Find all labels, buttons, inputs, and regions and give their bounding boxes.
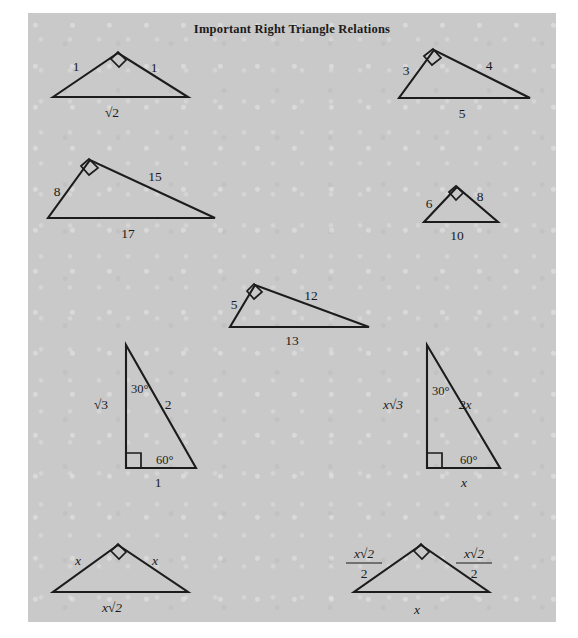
right-leg-label: x xyxy=(151,553,158,568)
figure-triangle-x-x-xsqrt2: x x x√2 xyxy=(53,544,188,615)
leg-6-label: 6 xyxy=(426,196,433,211)
hypotenuse-2-label: 2 xyxy=(165,397,172,412)
figure-panel: Important Right Triangle Relations 1 1 √… xyxy=(28,13,556,622)
triangle-outline xyxy=(230,285,369,327)
right-angle-marker xyxy=(126,453,141,468)
fraction-numerator: x√2 xyxy=(463,546,484,561)
leg-4-label: 4 xyxy=(486,58,493,73)
vertical-leg-label: x√3 xyxy=(382,397,403,412)
hypotenuse-13-label: 13 xyxy=(285,333,299,348)
base-label: x√2 xyxy=(101,600,122,615)
base-label: √2 xyxy=(105,105,119,120)
figure-triangle-half-sqrt2: x√2 2 x√2 2 x xyxy=(346,544,492,617)
figure-page: Important Right Triangle Relations 1 1 √… xyxy=(0,0,578,638)
triangle-outline xyxy=(126,345,196,468)
leg-8-label: 8 xyxy=(54,184,61,199)
right-triangle-relations-diagram: 1 1 √2 3 4 5 8 15 17 xyxy=(28,13,556,622)
angle-60-label: 60° xyxy=(460,453,478,467)
figure-triangle-30-60-90-numeric: 30° √3 2 60° 1 xyxy=(94,345,196,490)
fraction-numerator: x√2 xyxy=(353,546,374,561)
left-leg-label: 1 xyxy=(73,59,80,74)
right-leg-label: 1 xyxy=(151,60,158,75)
figure-triangle-30-60-90-variable: 30° x√3 2x 60° x xyxy=(382,345,500,490)
leg-5-label: 5 xyxy=(231,297,238,312)
left-leg-label: x xyxy=(74,553,81,568)
angle-60-label: 60° xyxy=(156,453,174,467)
base-1-label: 1 xyxy=(155,475,162,490)
fraction-denominator: 2 xyxy=(361,566,368,581)
triangle-outline xyxy=(48,160,215,218)
leg-12-label: 12 xyxy=(304,288,318,303)
fraction-denominator: 2 xyxy=(471,566,478,581)
triangle-outline xyxy=(399,50,530,98)
triangle-outline xyxy=(53,545,188,592)
base-x-label: x xyxy=(460,475,467,490)
figure-triangle-3-4-5: 3 4 5 xyxy=(399,49,530,121)
angle-30-label: 30° xyxy=(432,384,450,398)
hypotenuse-17-label: 17 xyxy=(121,226,135,241)
triangle-outline xyxy=(424,187,498,222)
vertical-leg-label: √3 xyxy=(94,397,108,412)
leg-3-label: 3 xyxy=(403,63,410,78)
leg-8-label: 8 xyxy=(477,189,484,204)
figure-triangle-1-1-sqrt2: 1 1 √2 xyxy=(53,52,188,120)
right-angle-marker xyxy=(427,453,442,468)
hypotenuse-5-label: 5 xyxy=(459,106,466,121)
hypotenuse-2x-label: 2x xyxy=(459,397,472,412)
base-x-label: x xyxy=(413,602,420,617)
hypotenuse-10-label: 10 xyxy=(450,228,464,243)
angle-30-label: 30° xyxy=(131,382,149,396)
figure-triangle-5-12-13: 5 12 13 xyxy=(230,284,369,348)
figure-triangle-6-8-10: 6 8 10 xyxy=(424,186,498,243)
right-leg-fraction: x√2 2 xyxy=(456,546,492,581)
figure-triangle-8-15-17: 8 15 17 xyxy=(48,159,215,241)
leg-15-label: 15 xyxy=(148,169,162,184)
